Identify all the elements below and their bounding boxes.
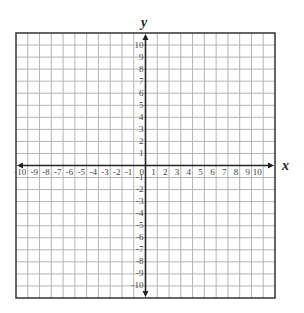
- x-tick-label: -3: [101, 167, 109, 177]
- y-tick-label: 8: [139, 64, 144, 74]
- coordinate-plane: -10-9-8-7-6-5-4-3-2-1012345678910 109876…: [0, 0, 304, 313]
- x-tick-label: -2: [113, 167, 121, 177]
- x-tick-label: -10: [14, 167, 26, 177]
- x-axis-arrow-right-icon: [268, 163, 274, 169]
- x-tick-label: 6: [210, 167, 215, 177]
- y-tick-label: -3: [136, 196, 144, 206]
- x-tick-label: 2: [163, 167, 168, 177]
- x-tick-label: -7: [54, 167, 62, 177]
- x-tick-label: 9: [245, 167, 250, 177]
- axes: [17, 34, 274, 297]
- x-tick-label: -1: [125, 167, 133, 177]
- x-tick-label: -5: [78, 167, 86, 177]
- y-tick-label: -7: [136, 244, 144, 254]
- y-tick-label: -8: [136, 256, 144, 266]
- x-tick-label: 5: [198, 167, 203, 177]
- y-tick-label: -4: [136, 208, 144, 218]
- y-tick-label: -5: [136, 220, 144, 230]
- x-tick-label: 4: [187, 167, 192, 177]
- y-tick-label: -9: [136, 268, 144, 278]
- y-axis-label: y: [139, 15, 148, 30]
- y-tick-label: 2: [139, 136, 144, 146]
- y-tick-label: -2: [136, 184, 144, 194]
- x-tick-label: -6: [66, 167, 74, 177]
- x-axis-label: x: [281, 158, 289, 173]
- x-tick-label: -9: [31, 167, 39, 177]
- y-tick-label: 6: [139, 88, 144, 98]
- y-tick-label: 1: [139, 148, 144, 158]
- x-tick-label: 8: [234, 167, 239, 177]
- x-tick-label: 1: [151, 167, 156, 177]
- x-tick-label: 10: [253, 167, 263, 177]
- x-tick-label: 3: [175, 167, 180, 177]
- y-tick-label: 4: [139, 112, 144, 122]
- x-tick-label: -4: [89, 167, 97, 177]
- y-tick-label: -10: [132, 280, 144, 290]
- x-tick-label: 7: [222, 167, 227, 177]
- x-tick-label: -8: [42, 167, 50, 177]
- y-axis-arrow-down-icon: [143, 291, 149, 297]
- y-tick-label: -1: [136, 172, 144, 182]
- y-tick-label: 10: [135, 40, 145, 50]
- y-tick-label: 7: [139, 76, 144, 86]
- y-tick-label: 5: [139, 100, 144, 110]
- y-tick-label: 9: [139, 52, 144, 62]
- y-tick-label: 3: [139, 124, 144, 134]
- y-tick-label: -6: [136, 232, 144, 242]
